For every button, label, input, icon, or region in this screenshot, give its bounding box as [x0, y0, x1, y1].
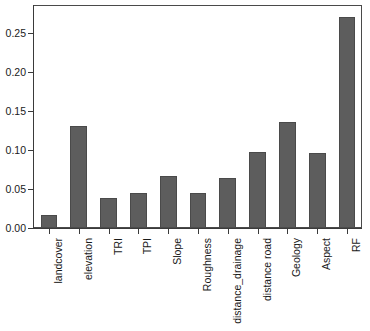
- bar: [309, 153, 326, 228]
- bar: [249, 152, 266, 228]
- bar-column: [130, 5, 147, 228]
- x-axis-tick: [347, 229, 348, 234]
- x-axis-tick-label: Aspect: [321, 238, 332, 270]
- bar: [130, 193, 147, 228]
- y-axis-tick-label: 0.10: [0, 145, 26, 156]
- y-axis-tick: [28, 72, 33, 73]
- bar: [100, 198, 117, 228]
- x-axis-tick: [79, 229, 80, 234]
- x-axis-tick-label: landcover: [53, 238, 64, 284]
- x-axis-tick: [317, 229, 318, 234]
- x-axis-tick-label: Slope: [172, 238, 183, 265]
- x-axis-tick: [109, 229, 110, 234]
- plot-area: [34, 5, 362, 228]
- bar-column: [70, 5, 87, 228]
- y-axis-tick-label: 0.00: [0, 223, 26, 234]
- x-axis-tick: [258, 229, 259, 234]
- x-axis-tick-label: Roughness: [202, 238, 213, 291]
- y-axis-tick: [28, 189, 33, 190]
- bar: [160, 176, 177, 228]
- bar: [70, 126, 87, 228]
- bar: [41, 215, 58, 228]
- x-axis-tick: [198, 229, 199, 234]
- x-axis-tick-label: RF: [351, 238, 362, 252]
- y-axis-tick-label: 0.05: [0, 184, 26, 195]
- y-axis-tick: [28, 111, 33, 112]
- bar-column: [41, 5, 58, 228]
- x-axis-tick-label: elevation: [83, 238, 94, 280]
- x-axis-tick: [138, 229, 139, 234]
- x-axis-tick-label: TPI: [142, 238, 153, 254]
- y-axis-tick-label: 0.15: [0, 106, 26, 117]
- y-axis-tick: [28, 150, 33, 151]
- bar: [219, 178, 236, 228]
- bar-column: [219, 5, 236, 228]
- x-axis-tick-label: distance road: [262, 238, 273, 301]
- bar-column: [190, 5, 207, 228]
- bar-column: [339, 5, 356, 228]
- x-axis-tick-label: TRI: [113, 238, 124, 255]
- y-axis-tick-label: 0.25: [0, 28, 26, 39]
- x-axis-tick: [287, 229, 288, 234]
- bar: [279, 122, 296, 228]
- bar-column: [100, 5, 117, 228]
- bar-column: [279, 5, 296, 228]
- bar-column: [249, 5, 266, 228]
- bar-chart: 0.000.050.100.150.200.25 landcoverelevat…: [0, 0, 370, 331]
- x-axis-tick-label: distance_drainage: [232, 238, 243, 324]
- x-axis-tick: [49, 229, 50, 234]
- x-axis-tick: [228, 229, 229, 234]
- bar-column: [309, 5, 326, 228]
- x-axis-tick-label: Geology: [291, 238, 302, 277]
- bar: [339, 17, 356, 228]
- bar-column: [160, 5, 177, 228]
- bar: [190, 193, 207, 228]
- y-axis-tick: [28, 33, 33, 34]
- x-axis-tick: [168, 229, 169, 234]
- y-axis-tick-label: 0.20: [0, 67, 26, 78]
